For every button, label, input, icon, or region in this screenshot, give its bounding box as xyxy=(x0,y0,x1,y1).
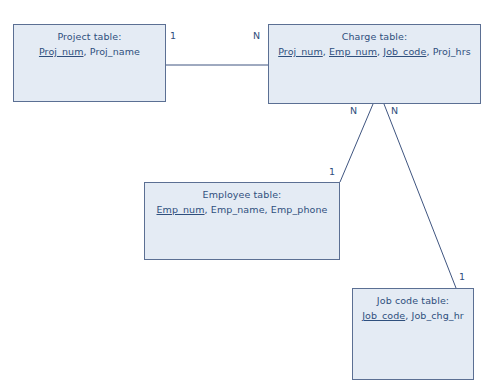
attribute-emp-phone: Emp_phone xyxy=(271,204,328,215)
entity-box-charge-table[interactable]: Charge table: Proj_num, Emp_num, Job_cod… xyxy=(268,24,481,104)
entity-attributes-charge: Proj_num, Emp_num, Job_code, Proj_hrs xyxy=(269,46,480,57)
entity-title-charge: Charge table: xyxy=(269,31,480,42)
entity-attributes-project: Proj_num, Proj_name xyxy=(14,46,165,57)
cardinality-label-project-one: 1 xyxy=(170,31,176,41)
entity-title-project: Project table: xyxy=(14,31,165,42)
attribute-job-code-pk: Job_code xyxy=(362,310,405,321)
entity-title-employee: Employee table: xyxy=(145,189,339,200)
entity-attributes-employee: Emp_num, Emp_name, Emp_phone xyxy=(145,204,339,215)
attribute-emp-name: Emp_name xyxy=(211,204,265,215)
entity-attributes-job-code: Job_code, Job_chg_hr xyxy=(353,310,473,321)
cardinality-label-charge-n-jobcode: N xyxy=(391,106,398,116)
attribute-emp-num-pk: Emp_num xyxy=(157,204,205,215)
attribute-proj-num-pk: Proj_num xyxy=(39,46,84,57)
cardinality-label-employee-one: 1 xyxy=(329,167,335,177)
attribute-job-chg-hr: Job_chg_hr xyxy=(412,310,464,321)
cardinality-label-jobcode-one: 1 xyxy=(459,272,465,282)
cardinality-label-charge-n-project: N xyxy=(253,31,260,41)
entity-box-employee-table[interactable]: Employee table: Emp_num, Emp_name, Emp_p… xyxy=(144,182,340,260)
attribute-job-code-pk: Job_code xyxy=(383,46,426,57)
attribute-proj-num-pk: Proj_num xyxy=(278,46,323,57)
relationship-line-jobcode-charge xyxy=(384,104,456,288)
entity-box-job-code-table[interactable]: Job code table: Job_code, Job_chg_hr xyxy=(352,288,474,380)
attribute-emp-num-pk: Emp_num xyxy=(329,46,377,57)
entity-box-project-table[interactable]: Project table: Proj_num, Proj_name xyxy=(13,24,166,102)
cardinality-label-charge-n-employee: N xyxy=(350,106,357,116)
entity-title-job-code: Job code table: xyxy=(353,295,473,306)
attribute-proj-hrs: Proj_hrs xyxy=(433,46,471,57)
attribute-proj-name: Proj_name xyxy=(90,46,140,57)
er-diagram-canvas: Project table: Proj_num, Proj_name Charg… xyxy=(0,0,501,386)
